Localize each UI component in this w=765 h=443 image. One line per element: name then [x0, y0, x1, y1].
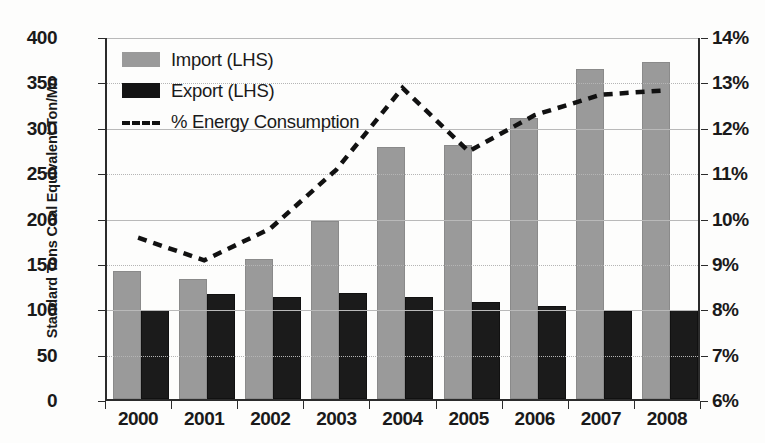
y-axis-left-tick [98, 356, 105, 357]
legend-label: % Energy Consumption [171, 111, 359, 133]
y-axis-right-tick-label: 10% [712, 209, 765, 231]
bar-import [444, 145, 472, 399]
y-axis-right-tick [701, 38, 708, 39]
x-axis-tick [171, 401, 172, 409]
x-axis-tick [634, 401, 635, 409]
x-axis-tick [369, 401, 370, 409]
y-axis-left-tick [98, 83, 105, 84]
y-axis-right-tick-label: 12% [712, 118, 765, 140]
gridline [107, 38, 698, 39]
y-axis-left-tick [98, 129, 105, 130]
dashed-line-icon [122, 121, 160, 125]
bar-export [141, 310, 169, 399]
color-swatch-icon [122, 83, 160, 98]
color-swatch-icon [122, 52, 160, 67]
y-axis-left-tick [98, 401, 105, 402]
y-axis-left-tick-label: 50 [0, 345, 57, 367]
y-axis-right-tick [701, 310, 708, 311]
y-axis-left-tick [98, 220, 105, 221]
bar-import [179, 279, 207, 399]
y-axis-left-tick-label: 350 [0, 72, 57, 94]
y-axis-right-tick-label: 13% [712, 72, 765, 94]
y-axis-right-tick [701, 356, 708, 357]
y-axis-left-tick-label: 300 [0, 118, 57, 140]
x-axis-tick [105, 401, 106, 409]
legend-item: Import (LHS) [122, 44, 359, 75]
bar-group [438, 38, 504, 399]
bar-import [510, 118, 538, 399]
bar-import [113, 271, 141, 399]
y-axis-right-tick-label: 7% [712, 345, 765, 367]
chart-legend: Import (LHS)Export (LHS)% Energy Consump… [122, 44, 359, 137]
y-axis-left-tick [98, 265, 105, 266]
y-axis-left-tick [98, 38, 105, 39]
x-axis-tick [436, 401, 437, 409]
y-axis-right-tick-label: 6% [712, 390, 765, 412]
bar-import [377, 147, 405, 399]
y-axis-left-tick-label: 200 [0, 209, 57, 231]
y-axis-right-tick [701, 401, 708, 402]
x-axis-tick [502, 401, 503, 409]
x-axis-tick [568, 401, 569, 409]
y-axis-left-tick-label: 400 [0, 27, 57, 49]
bar-group [636, 38, 702, 399]
x-axis-tick [237, 401, 238, 409]
gridline [107, 174, 698, 175]
y-axis-left-tick [98, 310, 105, 311]
legend-item: Export (LHS) [122, 75, 359, 106]
x-axis-tick [700, 401, 701, 409]
y-axis-right-tick [701, 83, 708, 84]
bar-import [576, 69, 604, 399]
y-axis-left-tick-label: 100 [0, 299, 57, 321]
x-axis-tick-label: 2008 [627, 408, 707, 430]
y-axis-right-tick [701, 265, 708, 266]
bar-import [245, 259, 273, 399]
y-axis-right-tick [701, 174, 708, 175]
x-axis-tick [303, 401, 304, 409]
bar-export [405, 297, 433, 399]
bar-export [339, 293, 367, 399]
bar-export [538, 306, 566, 399]
chart-root: Standard Tons Coal Equivalent Ton/Mn 400… [0, 0, 765, 443]
y-axis-right-tick-label: 8% [712, 299, 765, 321]
y-axis-right-tick-label: 9% [712, 254, 765, 276]
bar-group [371, 38, 437, 399]
y-axis-right-tick [701, 220, 708, 221]
bar-import [642, 62, 670, 399]
bar-export [472, 302, 500, 399]
y-axis-left-tick [98, 174, 105, 175]
bar-export [670, 310, 698, 399]
y-axis-right-tick-label: 14% [712, 27, 765, 49]
bar-group [504, 38, 570, 399]
gridline [107, 356, 698, 357]
gridline [107, 220, 698, 221]
legend-label: Export (LHS) [171, 80, 274, 102]
bar-export [273, 297, 301, 399]
y-axis-right-tick-label: 11% [712, 163, 765, 185]
y-axis-left-tick-label: 150 [0, 254, 57, 276]
y-axis-right-tick [701, 129, 708, 130]
bar-group [570, 38, 636, 399]
gridline [107, 265, 698, 266]
y-axis-left-tick-label: 0 [0, 390, 57, 412]
y-axis-left-tick-label: 250 [0, 163, 57, 185]
legend-label: Import (LHS) [171, 49, 273, 71]
legend-item: % Energy Consumption [122, 106, 359, 137]
gridline [107, 310, 698, 311]
